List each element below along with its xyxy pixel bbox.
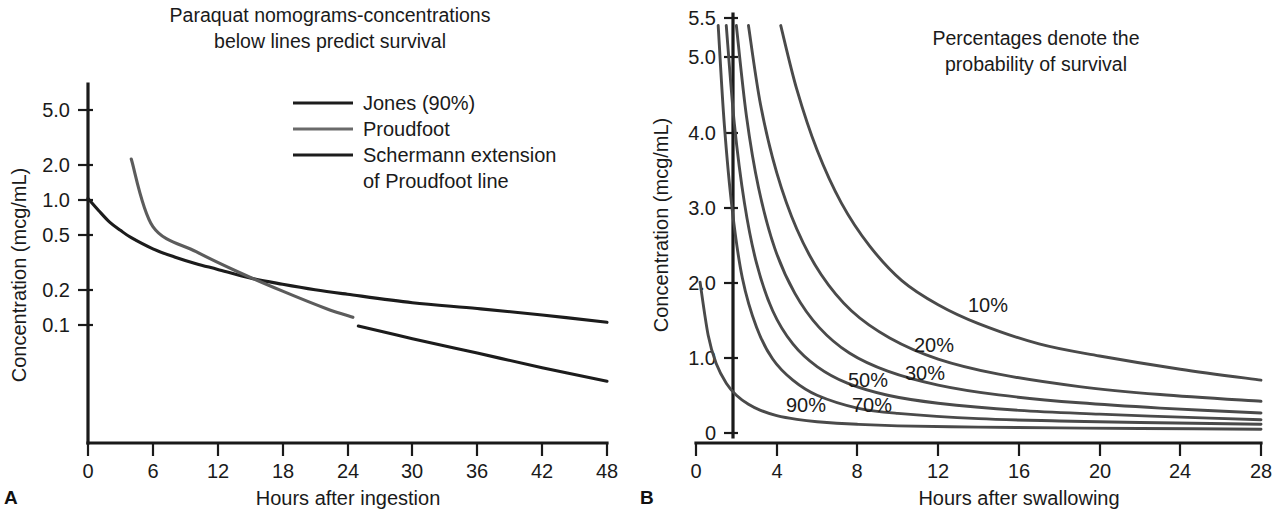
panel-a-chart: Paraquat nomograms-concentrations below … bbox=[0, 0, 636, 515]
panel-a-y-ticks bbox=[78, 110, 93, 325]
y-tick-label: 5.5 bbox=[688, 7, 716, 29]
y-tick-label: 0.2 bbox=[42, 279, 70, 301]
paraquat-nomogram-figure: Paraquat nomograms-concentrations below … bbox=[0, 0, 1272, 515]
panel-b-y-tick-labels: 5.5 5.0 4.0 3.0 2.0 1.0 0 bbox=[688, 7, 716, 444]
curve-label-50: 50% bbox=[848, 369, 888, 391]
series-line bbox=[718, 26, 1261, 425]
y-tick-label: 2.0 bbox=[42, 154, 70, 176]
x-tick-label: 24 bbox=[1169, 460, 1191, 482]
panel-a-series-group bbox=[88, 159, 607, 381]
panel-a: Paraquat nomograms-concentrations below … bbox=[0, 0, 636, 515]
x-tick-label: 12 bbox=[927, 460, 949, 482]
curve-label-90: 90% bbox=[786, 394, 826, 416]
panel-a-letter: A bbox=[4, 487, 18, 509]
panel-b-letter: B bbox=[640, 487, 654, 509]
series-line bbox=[748, 26, 1261, 402]
series-line bbox=[736, 26, 1261, 413]
x-tick-label: 4 bbox=[771, 460, 782, 482]
series-line bbox=[781, 26, 1261, 381]
series-line bbox=[358, 326, 607, 381]
x-tick-label: 30 bbox=[401, 460, 423, 482]
series-line bbox=[88, 198, 607, 322]
curve-label-70: 70% bbox=[852, 394, 892, 416]
y-tick-label: 5.0 bbox=[42, 99, 70, 121]
panel-b-series-group bbox=[700, 26, 1261, 430]
legend-label-proudfoot: Proudfoot bbox=[363, 118, 450, 140]
curve-label-20: 20% bbox=[914, 334, 954, 356]
panel-a-y-axis-label: Concentration (mcg/mL) bbox=[8, 168, 30, 383]
y-tick-label: 0.1 bbox=[42, 314, 70, 336]
x-tick-label: 24 bbox=[337, 460, 359, 482]
panel-b-x-axis-label: Hours after swallowing bbox=[918, 487, 1119, 509]
panel-a-x-tick-labels: 0 6 12 18 24 30 36 42 48 bbox=[82, 460, 618, 482]
x-tick-label: 48 bbox=[596, 460, 618, 482]
panel-a-x-ticks bbox=[88, 443, 607, 456]
panel-a-legend: Jones (90%) Proudfoot Schermann extensio… bbox=[293, 92, 556, 192]
panel-a-title-line1: Paraquat nomograms-concentrations bbox=[170, 4, 491, 26]
x-tick-label: 28 bbox=[1250, 460, 1272, 482]
x-tick-label: 42 bbox=[531, 460, 553, 482]
x-tick-label: 6 bbox=[147, 460, 158, 482]
x-tick-label: 36 bbox=[466, 460, 488, 482]
series-line bbox=[131, 159, 353, 317]
y-tick-label: 1.0 bbox=[42, 189, 70, 211]
panel-b: Percentages denote the probability of su… bbox=[636, 0, 1272, 515]
x-tick-label: 16 bbox=[1008, 460, 1030, 482]
panel-a-y-tick-labels: 5.0 2.0 1.0 0.5 0.2 0.1 bbox=[42, 99, 70, 336]
x-tick-label: 12 bbox=[207, 460, 229, 482]
x-tick-label: 20 bbox=[1089, 460, 1111, 482]
panel-b-title-line2: probability of survival bbox=[945, 53, 1127, 75]
legend-label-schermann-line2: of Proudfoot line bbox=[363, 170, 509, 192]
panel-b-y-axis-label: Concentration (mcg/mL) bbox=[650, 118, 672, 333]
curve-label-10: 10% bbox=[968, 294, 1008, 316]
panel-b-x-tick-labels: 0 4 8 12 16 20 24 28 bbox=[690, 460, 1272, 482]
panel-b-chart: Percentages denote the probability of su… bbox=[636, 0, 1272, 515]
curve-label-30: 30% bbox=[905, 362, 945, 384]
panel-b-title-line1: Percentages denote the bbox=[932, 27, 1139, 49]
y-tick-label: 5.0 bbox=[688, 46, 716, 68]
panel-a-title-line2: below lines predict survival bbox=[214, 30, 446, 52]
y-tick-label: 4.0 bbox=[688, 122, 716, 144]
panel-b-x-ticks bbox=[696, 443, 1261, 456]
y-tick-label: 0 bbox=[705, 422, 716, 444]
legend-label-schermann: Schermann extension bbox=[363, 144, 556, 166]
series-line bbox=[726, 26, 1261, 420]
y-tick-label: 3.0 bbox=[688, 197, 716, 219]
legend-label-jones: Jones (90%) bbox=[363, 92, 475, 114]
panel-a-x-axis-label: Hours after ingestion bbox=[256, 487, 441, 509]
x-tick-label: 0 bbox=[82, 460, 93, 482]
y-tick-label: 0.5 bbox=[42, 224, 70, 246]
x-tick-label: 0 bbox=[690, 460, 701, 482]
x-tick-label: 8 bbox=[851, 460, 862, 482]
x-tick-label: 18 bbox=[272, 460, 294, 482]
